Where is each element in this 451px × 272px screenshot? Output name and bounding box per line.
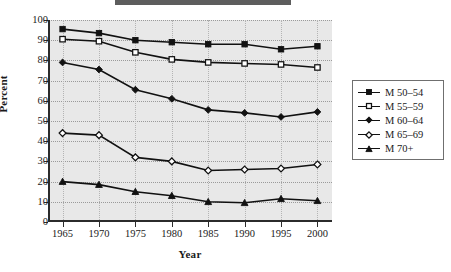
legend-item-5[interactable]: M 70+ xyxy=(357,142,440,156)
data-point-marker xyxy=(241,110,248,117)
y-tick-label: 10 xyxy=(14,197,48,207)
y-tick-label: 100 xyxy=(14,15,48,25)
data-point-marker xyxy=(168,95,175,102)
legend-label: M 50–54 xyxy=(381,87,423,98)
x-axis-label: Year xyxy=(48,248,332,260)
data-point-marker xyxy=(60,36,65,41)
series-5 xyxy=(59,178,321,205)
x-tick-mark xyxy=(135,222,136,227)
data-point-marker xyxy=(133,38,138,43)
x-tick-label: 2000 xyxy=(295,228,339,239)
legend-label: M 65–69 xyxy=(381,129,423,140)
series-2 xyxy=(60,36,320,70)
y-tick-label: 80 xyxy=(14,55,48,65)
y-tick-label: 50 xyxy=(14,116,48,126)
legend-item-2[interactable]: M 55–59 xyxy=(357,99,440,113)
data-point-marker xyxy=(278,62,283,67)
data-point-marker xyxy=(314,109,321,116)
chart-legend: M 50–54M 55–59M 60–64M 65–69M 70+ xyxy=(352,80,444,160)
data-point-marker xyxy=(59,59,66,66)
data-point-marker xyxy=(133,50,138,55)
data-point-marker xyxy=(59,130,66,137)
x-tick-mark xyxy=(172,222,173,227)
legend-item-4[interactable]: M 65–69 xyxy=(357,128,440,142)
data-point-marker xyxy=(96,39,101,44)
legend-label: M 70+ xyxy=(381,143,413,154)
series-4 xyxy=(59,130,321,174)
data-point-marker xyxy=(278,114,285,121)
data-point-marker xyxy=(241,166,248,173)
data-point-marker xyxy=(315,44,320,49)
legend-marker-icon xyxy=(357,100,381,112)
y-axis-label: Percent xyxy=(0,75,9,112)
x-tick-mark xyxy=(99,222,100,227)
legend-item-3[interactable]: M 60–64 xyxy=(357,113,440,127)
data-point-marker xyxy=(278,165,285,172)
data-point-marker xyxy=(169,40,174,45)
data-point-marker xyxy=(132,86,139,93)
x-tick-mark xyxy=(317,222,318,227)
legend-marker-icon xyxy=(357,129,381,141)
legend-label: M 60–64 xyxy=(381,115,423,126)
chart-figure: 0102030405060708090100 Percent 196519701… xyxy=(0,0,451,272)
data-point-marker xyxy=(205,106,212,113)
x-tick-mark xyxy=(63,222,64,227)
data-point-marker xyxy=(315,65,320,70)
legend-marker-icon xyxy=(357,143,381,155)
data-point-marker xyxy=(96,30,101,35)
data-point-marker xyxy=(242,61,247,66)
data-point-marker xyxy=(168,158,175,165)
y-tick-label: 40 xyxy=(14,136,48,146)
data-point-marker xyxy=(242,42,247,47)
y-tick-label: 90 xyxy=(14,35,48,45)
y-tick-label: 0 xyxy=(14,217,48,227)
y-tick-label: 30 xyxy=(14,156,48,166)
data-point-marker xyxy=(96,66,103,73)
data-point-marker xyxy=(169,57,174,62)
legend-item-1[interactable]: M 50–54 xyxy=(357,85,440,99)
data-point-marker xyxy=(278,47,283,52)
legend-marker-icon xyxy=(357,86,381,98)
legend-label: M 55–59 xyxy=(381,101,423,112)
legend-marker-icon xyxy=(357,114,381,126)
series-line xyxy=(63,133,318,170)
y-tick-label: 20 xyxy=(14,177,48,187)
data-point-marker xyxy=(206,60,211,65)
data-point-marker xyxy=(314,161,321,168)
y-tick-label: 70 xyxy=(14,76,48,86)
data-point-marker xyxy=(205,167,212,174)
x-tick-mark xyxy=(208,222,209,227)
series-layer xyxy=(48,20,332,222)
x-tick-mark xyxy=(281,222,282,227)
x-tick-mark xyxy=(245,222,246,227)
y-tick-label: 60 xyxy=(14,96,48,106)
series-3 xyxy=(59,59,321,120)
data-point-marker xyxy=(60,26,65,31)
scan-artifact-bar xyxy=(115,0,291,5)
data-point-marker xyxy=(206,42,211,47)
